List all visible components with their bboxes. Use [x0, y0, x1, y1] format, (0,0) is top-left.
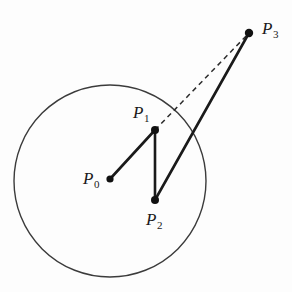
point-marker-p2 — [151, 196, 159, 204]
point-label-p2: P2 — [146, 211, 162, 228]
point-label-p0: P0 — [83, 170, 99, 187]
point-label-p2-base: P — [146, 210, 156, 229]
point-label-p0-base: P — [83, 169, 93, 188]
figure-canvas: P0 P1 P2 P3 — [0, 0, 292, 292]
point-label-p0-subscript: 0 — [94, 178, 100, 190]
point-label-p1-subscript: 1 — [144, 112, 150, 124]
point-label-p3-subscript: 3 — [273, 28, 279, 40]
point-label-p1-base: P — [133, 103, 143, 122]
point-marker-p1 — [151, 126, 159, 134]
point-label-p2-subscript: 2 — [157, 219, 163, 231]
segment-p0-p1 — [110, 130, 155, 179]
point-marker-p0 — [106, 175, 113, 182]
point-label-p3: P3 — [262, 20, 278, 37]
point-label-p3-base: P — [262, 19, 272, 38]
point-marker-p3 — [245, 29, 253, 37]
geometry-diagram-svg — [0, 0, 292, 292]
point-label-p1: P1 — [133, 104, 149, 121]
